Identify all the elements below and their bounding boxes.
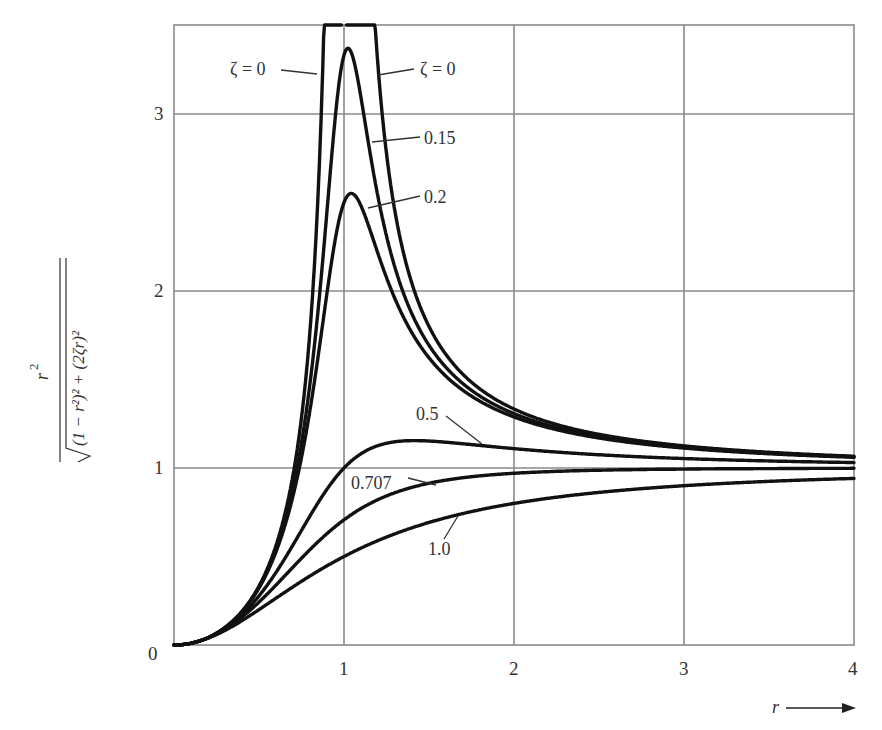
- x-axis-label-text: r: [772, 697, 780, 717]
- tick-y-3: 3: [154, 103, 164, 124]
- tick-y-1: 1: [154, 457, 164, 478]
- y-label-numerator: r: [32, 372, 52, 380]
- label-0-2: 0.2: [424, 187, 447, 207]
- leader-0-15: [372, 137, 420, 142]
- label-0-707: 0.707: [351, 473, 392, 493]
- label-zeta0-right: ζ = 0: [420, 59, 456, 79]
- curve-annotations: ζ = 0 ζ = 0 0.15 0.2 0.5 0.707 1.0: [230, 59, 482, 559]
- tick-x-3: 3: [679, 658, 689, 679]
- label-0-15: 0.15: [424, 128, 456, 148]
- leader-zeta0-left: [281, 70, 317, 74]
- label-zeta0-left: ζ = 0: [230, 59, 266, 79]
- label-1-0: 1.0: [428, 539, 451, 559]
- chart-canvas: 0 1 2 3 4 1 2 3 r r 2 (1 − r²)² + (2ζr)²…: [0, 0, 882, 730]
- leader-0-5: [446, 416, 482, 444]
- tick-x-1: 1: [339, 658, 349, 679]
- x-axis-ticks: 0 1 2 3 4: [148, 643, 858, 679]
- y-label-denominator: (1 − r²)² + (2ζr)²: [69, 330, 88, 446]
- tick-y-2: 2: [154, 280, 164, 301]
- arrow-right-icon: [842, 703, 856, 713]
- leader-zeta0-right: [378, 69, 414, 75]
- y-label-numerator-exp: 2: [26, 364, 41, 371]
- tick-origin: 0: [148, 643, 158, 664]
- x-axis-label: r: [772, 697, 856, 717]
- y-axis-ticks: 1 2 3: [154, 103, 164, 478]
- y-axis-label: r 2 (1 − r²)² + (2ζr)²: [26, 258, 90, 462]
- label-0-5: 0.5: [416, 404, 439, 424]
- curve-zeta-0-right: [347, 25, 855, 456]
- tick-x-2: 2: [509, 658, 519, 679]
- tick-x-4: 4: [848, 658, 858, 679]
- leader-1-0: [444, 516, 458, 539]
